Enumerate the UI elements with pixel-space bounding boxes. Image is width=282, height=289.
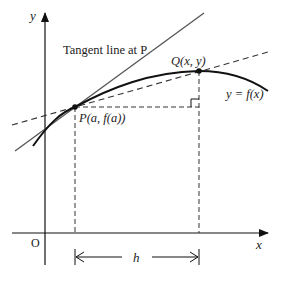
point-q-label: Q(x, y) xyxy=(171,54,206,68)
point-p-label: P(a, f(a)) xyxy=(78,111,126,125)
y-axis-label: y xyxy=(28,8,36,23)
origin-label: O xyxy=(31,236,40,250)
point-q xyxy=(196,68,202,74)
curve-label: y = f(x) xyxy=(224,87,264,101)
curve-f xyxy=(33,71,268,146)
tangent-line xyxy=(15,13,204,151)
diagram-canvas: y x O Tangent line at P P(a, f(a)) Q(x, … xyxy=(0,0,282,289)
tangent-label: Tangent line at P xyxy=(63,43,147,57)
h-label: h xyxy=(133,250,140,265)
right-angle-marker xyxy=(191,99,199,107)
point-p xyxy=(72,104,78,110)
x-axis-label: x xyxy=(255,237,262,252)
